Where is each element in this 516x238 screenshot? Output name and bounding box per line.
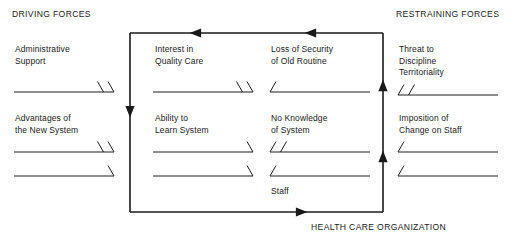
factor-label-advantages-new-system: Advantages of the New System (15, 113, 78, 136)
flow-arrow-bottom-1 (296, 207, 308, 216)
force-line-tick (270, 142, 276, 153)
force-line-tick (108, 82, 114, 93)
factor-label-administrative-support: Administrative Support (15, 44, 70, 67)
factor-label-threat-to-discipline: Threat to Discipline Territoriality (399, 44, 444, 79)
force-line-driving-inner-1 (153, 142, 253, 153)
force-line-tick (98, 82, 104, 93)
flow-arrow-right-1 (378, 80, 387, 92)
force-line-driving-inner-extra-0 (153, 166, 253, 177)
caption-health-care-organization: HEALTH CARE ORGANIZATION (311, 222, 446, 233)
factor-label-ability-learn-system: Ability to Learn System (155, 113, 209, 136)
force-line-driving-outer-1 (14, 142, 114, 153)
center-label-staff: Staff (271, 186, 289, 198)
heading-restraining-forces: RESTRAINING FORCES (396, 9, 499, 20)
flow-arrow-top-2 (305, 28, 317, 37)
force-line-tick (247, 82, 253, 93)
force-line-tick (247, 142, 253, 153)
force-line-restraining-inner-1 (270, 142, 370, 153)
force-line-restraining-outer-extra-0 (398, 166, 498, 177)
force-line-tick (398, 142, 404, 153)
flow-arrow-left-1 (125, 106, 134, 118)
flow-arrow-right-2 (378, 151, 387, 163)
force-line-tick (409, 85, 415, 96)
force-line-restraining-inner-extra-0 (270, 166, 370, 177)
factor-label-loss-of-security: Loss of Security of Old Routine (271, 44, 333, 67)
force-line-tick (270, 82, 276, 93)
force-line-tick (281, 142, 287, 153)
force-line-tick (247, 166, 253, 177)
force-line-driving-outer-0 (14, 82, 114, 93)
force-line-restraining-outer-0 (398, 85, 498, 96)
force-line-tick (398, 166, 404, 177)
force-line-tick (108, 166, 114, 177)
factor-label-imposition-of-change: Imposition of Change on Staff (399, 113, 462, 136)
force-line-driving-inner-0 (153, 82, 253, 93)
force-line-restraining-inner-0 (270, 82, 370, 93)
force-line-restraining-outer-1 (398, 142, 498, 153)
force-line-tick (270, 166, 276, 177)
force-line-tick (398, 85, 404, 96)
factor-label-no-knowledge-of-system: No Knowledge of System (271, 113, 328, 136)
force-line-driving-outer-extra-0 (14, 166, 114, 177)
force-line-tick (108, 142, 114, 153)
heading-driving-forces: DRIVING FORCES (12, 9, 91, 20)
factor-label-interest-quality-care: Interest in Quality Care (155, 44, 203, 67)
force-line-tick (237, 82, 243, 93)
force-field-diagram: DRIVING FORCES RESTRAINING FORCES HEALTH… (0, 0, 516, 238)
flow-arrow-top-1 (190, 28, 202, 37)
force-line-tick (98, 142, 104, 153)
